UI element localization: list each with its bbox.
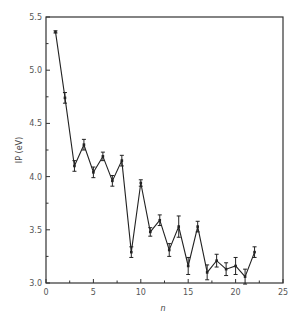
y-tick-label: 3.5 — [29, 226, 42, 235]
data-point — [187, 265, 190, 268]
data-point — [73, 165, 76, 168]
data-point — [92, 171, 95, 174]
y-tick-label: 4.5 — [29, 119, 42, 128]
x-tick-label: 5 — [91, 288, 96, 297]
data-point — [196, 225, 199, 228]
data-point — [225, 268, 228, 271]
y-axis-label: IP (eV) — [15, 137, 24, 163]
x-tick-label: 20 — [231, 288, 241, 297]
y-tick-label: 5.0 — [29, 66, 42, 75]
data-point — [206, 271, 209, 274]
x-tick-label: 15 — [183, 288, 193, 297]
data-point — [158, 219, 161, 222]
data-point — [149, 231, 152, 234]
x-tick-label: 10 — [136, 288, 146, 297]
y-tick-label: 5.5 — [29, 13, 42, 22]
data-markers — [54, 31, 256, 278]
y-tick-label: 4.0 — [29, 173, 42, 182]
data-point — [102, 155, 105, 158]
data-point — [83, 143, 86, 146]
data-point — [253, 251, 256, 254]
x-tick-label: 25 — [278, 288, 288, 297]
data-point — [215, 259, 218, 262]
data-point — [121, 159, 124, 162]
error-bars — [53, 31, 256, 284]
data-point — [168, 249, 171, 252]
series-line — [56, 32, 255, 277]
data-point — [130, 251, 133, 254]
data-point — [177, 225, 180, 228]
data-point — [244, 275, 247, 278]
axis-ticks: 05101520253.03.54.04.55.05.5 — [29, 13, 288, 297]
data-point — [111, 180, 114, 183]
data-point — [140, 182, 143, 185]
data-point — [234, 265, 237, 268]
data-point — [54, 31, 57, 34]
data-point — [64, 97, 67, 100]
x-tick-label: 0 — [43, 288, 48, 297]
x-axis-label: n — [160, 304, 165, 313]
y-tick-label: 3.0 — [29, 279, 42, 288]
chart: 05101520253.03.54.04.55.05.5 n IP (eV) — [0, 0, 299, 321]
